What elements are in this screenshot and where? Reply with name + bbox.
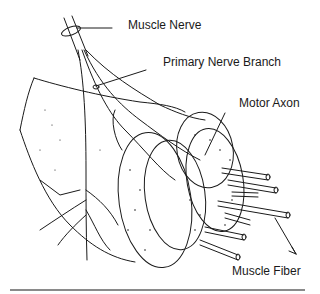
label-primary-nerve-branch: Primary Nerve Branch [163, 55, 281, 69]
label-motor-axon: Motor Axon [239, 96, 300, 110]
muscle-illustration [0, 0, 320, 294]
label-muscle-nerve: Muscle Nerve [128, 18, 201, 32]
label-muscle-fiber: Muscle Fiber [232, 264, 301, 278]
divider-rule [10, 289, 305, 291]
muscle-diagram: Muscle Nerve Primary Nerve Branch Motor … [0, 0, 320, 294]
